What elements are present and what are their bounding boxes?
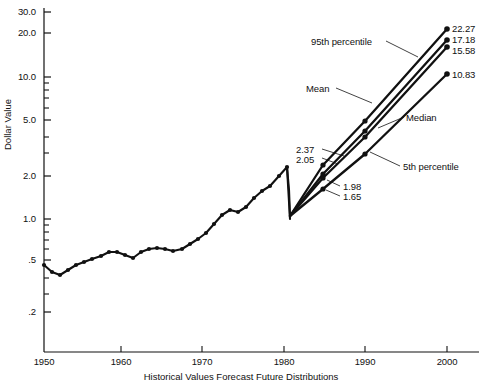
x-axis-ticks	[121, 346, 447, 352]
y-axis-minor-ticks	[44, 83, 49, 294]
x-axis-title: Historical Values Forecast Future Distri…	[0, 371, 482, 382]
chart-plot-area	[0, 0, 482, 391]
x-tick-label-1990: 1990	[345, 357, 385, 367]
series-median	[290, 44, 450, 216]
callout-median: Median	[406, 112, 437, 123]
end-label-mean: 17.18	[452, 34, 475, 45]
y-tick-label-1: 1.0	[2, 214, 36, 224]
end-label-median: 15.58	[452, 45, 475, 56]
x-tick-label-1970: 1970	[182, 357, 222, 367]
chart-figure: 30.0 20.0 10.0 5.0 2.0 1.0 .5 .2 1950 19…	[0, 0, 482, 391]
end-label-5th-percentile: 10.83	[452, 69, 475, 80]
x-tick-label-1950: 1950	[24, 357, 64, 367]
x-tick-label-1960: 1960	[101, 357, 141, 367]
y-tick-label-30: 30.0	[2, 7, 36, 17]
y-tick-label-point2: .2	[2, 307, 36, 317]
y-tick-label-2: 2.0	[2, 171, 36, 181]
callout-mean: Mean	[306, 83, 329, 94]
x-tick-label-1980: 1980	[264, 357, 304, 367]
x-tick-label-2000: 2000	[427, 357, 467, 367]
axis-lines	[44, 8, 479, 352]
y-tick-label-point5: .5	[2, 255, 36, 265]
callout-5th-percentile: 5th percentile	[403, 161, 459, 172]
mid-label-mean: 2.05	[296, 154, 314, 165]
callout-leader-lines	[322, 41, 418, 196]
y-axis-title: Dollar Value	[2, 30, 13, 150]
callout-95th-percentile: 95th percentile	[311, 36, 372, 47]
end-label-95th-percentile: 22.27	[452, 23, 475, 34]
mid-label-5th-percentile: 1.65	[343, 191, 361, 202]
series-historical-values	[42, 165, 290, 277]
